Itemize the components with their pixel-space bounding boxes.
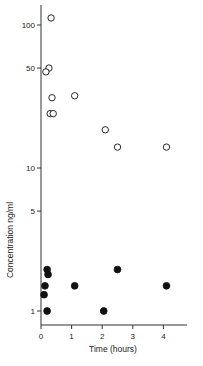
filled-circle-marker	[45, 271, 52, 278]
x-tick-label: 1	[69, 332, 74, 341]
filled-circle-marker	[114, 266, 121, 273]
open-circle-marker	[48, 15, 54, 21]
y-tick-label: 5	[31, 207, 36, 216]
y-tick-label: 50	[26, 64, 35, 73]
data-points	[41, 15, 170, 315]
filled-circle-marker	[42, 282, 49, 289]
open-circle-marker	[114, 144, 120, 150]
x-tick-label: 4	[161, 332, 166, 341]
y-ticks: 151050100	[22, 21, 41, 316]
open-circle-marker	[43, 69, 49, 75]
scatter-chart: 151050100 01234 Concentration ng/ml Time…	[0, 0, 203, 366]
open-circle-marker	[71, 93, 77, 99]
y-axis-label: Concentration ng/ml	[5, 202, 15, 278]
y-tick-label: 100	[22, 21, 36, 30]
x-tick-label: 3	[131, 332, 136, 341]
x-tick-label: 2	[100, 332, 105, 341]
y-tick-label: 1	[31, 307, 36, 316]
filled-circle-marker	[41, 291, 48, 298]
x-axis-label: Time (hours)	[89, 344, 137, 354]
axes	[41, 5, 187, 325]
open-circle-marker	[49, 95, 55, 101]
x-ticks: 01234	[39, 325, 166, 341]
x-tick-label: 0	[39, 332, 44, 341]
filled-circle-marker	[44, 308, 51, 315]
open-circle-marker	[102, 127, 108, 133]
open-circle-marker	[50, 110, 56, 116]
filled-circle-marker	[100, 308, 107, 315]
open-circle-marker	[163, 144, 169, 150]
y-tick-label: 10	[26, 164, 35, 173]
filled-circle-marker	[163, 282, 170, 289]
filled-circle-marker	[71, 282, 78, 289]
